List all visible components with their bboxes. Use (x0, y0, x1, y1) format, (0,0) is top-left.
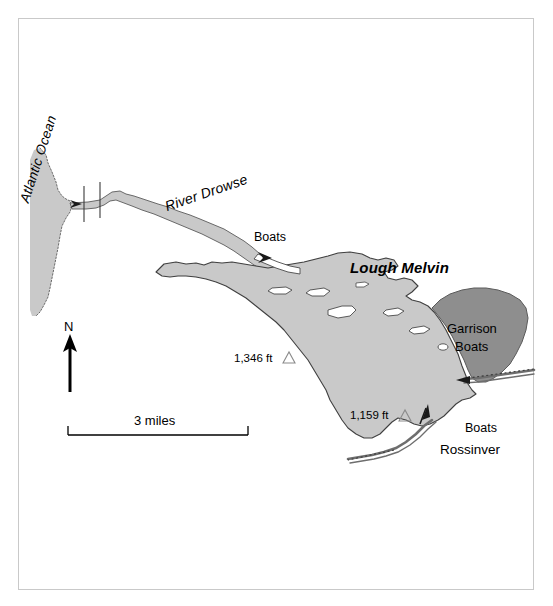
label-elevation-1159: 1,159 ft (350, 410, 388, 422)
map-graphics (0, 0, 553, 606)
label-elevation-1346: 1,346 ft (234, 353, 272, 365)
map-figure: Atlantic Ocean River Drowse Lough Melvin… (0, 0, 553, 606)
label-scale-bar: 3 miles (134, 414, 175, 427)
label-garrison: Garrison (447, 322, 497, 335)
label-boats-rossinver: Boats (465, 422, 497, 435)
north-arrow-icon (63, 334, 77, 392)
label-lough-melvin: Lough Melvin (350, 260, 449, 275)
label-north: N (64, 320, 73, 333)
elevation-marker-1346-icon (283, 352, 295, 363)
label-boats-northwest: Boats (254, 231, 286, 244)
label-rossinver: Rossinver (440, 443, 500, 457)
label-boats-garrison: Boats (455, 340, 488, 353)
